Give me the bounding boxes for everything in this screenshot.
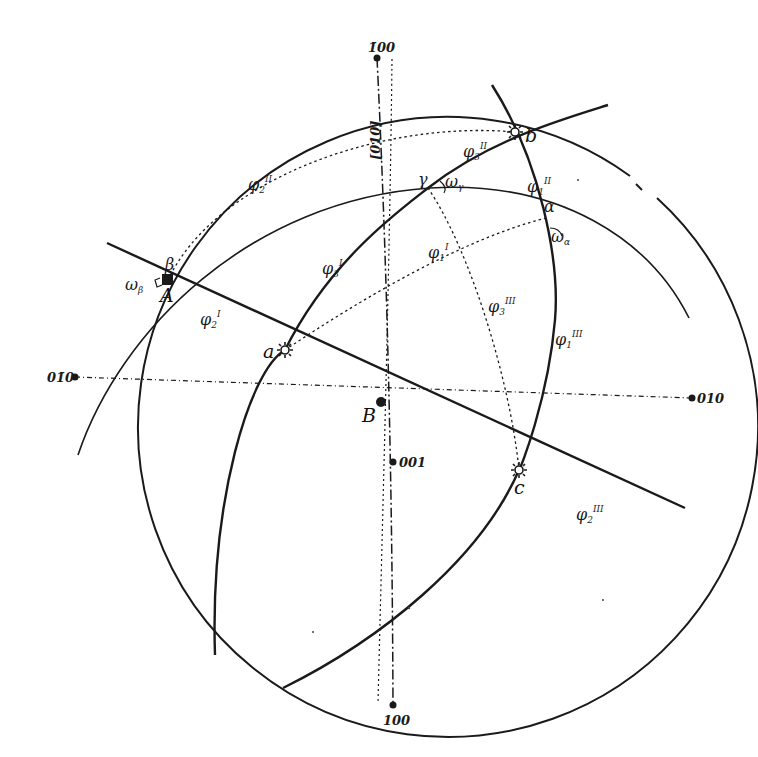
label-point-A: A — [158, 284, 174, 306]
point-a-marker — [277, 342, 293, 358]
primitive-circle — [138, 117, 758, 737]
label-pole-bottom: 100 — [383, 713, 410, 728]
zone-line-Aac — [107, 243, 685, 508]
label-omega-gamma: ωγ — [445, 172, 464, 192]
arc-phi3-tprime — [428, 188, 519, 470]
pole-dots — [72, 55, 696, 709]
label-point-b: b — [525, 124, 537, 146]
pole-dot-top — [374, 55, 381, 62]
label-point-c: c — [514, 476, 525, 498]
label-alpha: α — [544, 197, 555, 216]
print-speck — [577, 179, 579, 181]
label-point-B: B — [361, 404, 376, 426]
label-pole-right: 010 — [697, 391, 724, 406]
label-phi3-tprime: φ3III — [488, 296, 516, 317]
label-zone-axis-010: [010] — [368, 121, 383, 160]
arc-phi1-prime — [285, 218, 546, 350]
reference-diameters — [75, 58, 692, 705]
primitive-circle-dash — [636, 184, 642, 190]
label-phi1-tprime: φ1III — [555, 329, 583, 350]
label-phi2-prime: φ2I — [200, 309, 221, 330]
stereographic-projection: 1̄00 100 01̄0 010 001 [010] A B a b c α … — [0, 0, 758, 757]
label-phi2-tprime: φ2III — [576, 504, 604, 525]
label-phi1-dprime: φ1II — [527, 176, 551, 197]
label-phi2-dprime: φ2II — [248, 174, 272, 195]
print-speck — [602, 599, 604, 601]
print-speck — [408, 607, 410, 609]
pole-dot-001 — [390, 459, 397, 466]
label-omega-beta: ωβ — [125, 275, 143, 295]
great-circles — [78, 85, 689, 688]
label-point-a: a — [263, 340, 274, 362]
label-omega-alpha: ωα — [551, 227, 570, 247]
label-pole-left: 01̄0 — [47, 370, 74, 385]
primitive-circle-main — [138, 117, 758, 737]
point-B-dot — [376, 397, 386, 407]
label-pole-001: 001 — [399, 455, 426, 470]
label-phi1-prime: φ1I — [428, 242, 449, 263]
angle-marks — [155, 181, 562, 287]
point-b-marker — [507, 124, 523, 140]
great-circle-a-gamma-b — [215, 105, 608, 655]
pole-dot-right — [689, 395, 696, 402]
label-beta: β — [164, 255, 174, 274]
print-speck — [312, 631, 314, 633]
label-pole-top: 1̄00 — [368, 40, 395, 55]
pole-dot-bottom — [390, 702, 397, 709]
diameter-010 — [75, 377, 692, 398]
label-gamma: γ — [418, 170, 428, 189]
